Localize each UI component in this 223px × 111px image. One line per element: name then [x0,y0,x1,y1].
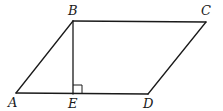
label-d: D [142,96,154,111]
edge-bc [73,21,206,22]
label-e: E [67,96,78,111]
label-c: C [201,3,211,18]
right-angle-marker [73,85,82,94]
edge-cd [148,22,206,94]
label-a: A [7,95,17,110]
edge-ab [16,21,73,93]
label-b: B [67,3,78,18]
parallelogram-diagram: A B C D E [0,0,223,111]
